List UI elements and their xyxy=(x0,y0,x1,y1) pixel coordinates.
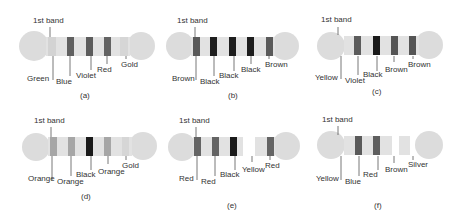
band-label: Red xyxy=(179,174,194,183)
resistor-f: 1st band Yellow Blue Red Brown Silver (f… xyxy=(316,115,443,210)
band-label: Black xyxy=(219,71,240,80)
caption: (b) xyxy=(228,91,238,100)
first-band-label: 1st band xyxy=(322,115,353,124)
resistor-d: 1st band Orange Orange Black Orange Gold… xyxy=(22,116,157,201)
band-5-red xyxy=(267,137,274,156)
band-3-violet xyxy=(86,37,93,56)
band-2-black xyxy=(210,37,217,56)
resistor-b: 1st band Brown Black Black Black Brown (… xyxy=(166,16,299,100)
left-end-cap xyxy=(317,131,345,159)
first-band-label: 1st band xyxy=(321,15,352,24)
band-5-gold xyxy=(122,137,129,156)
band-3-black xyxy=(229,37,236,56)
band-5-brown xyxy=(409,36,416,55)
right-end-cap xyxy=(271,32,299,60)
band-label: Black xyxy=(200,77,221,86)
first-band-label: 1st band xyxy=(34,116,65,125)
caption: (c) xyxy=(372,87,382,96)
resistor-a: 1st band Green Blue Violet Red Gold (a) xyxy=(19,16,155,100)
band-4-orange xyxy=(104,137,111,156)
band-label: Brown xyxy=(385,165,408,174)
resistor-color-code-figure: 1st band Green Blue Violet Red Gold (a) … xyxy=(0,0,466,216)
band-1-green xyxy=(48,37,56,56)
band-label: Blue xyxy=(56,77,73,86)
band-2-blue xyxy=(355,136,362,155)
band-5-brown xyxy=(266,37,273,56)
left-end-cap xyxy=(168,133,196,161)
band-4-brown xyxy=(391,36,398,55)
band-label: Red xyxy=(97,65,112,74)
first-band-label: 1st band xyxy=(179,116,210,125)
right-end-cap xyxy=(129,132,157,160)
band-5-gold xyxy=(120,37,128,56)
resistor-body-left xyxy=(344,136,392,155)
band-4-red xyxy=(104,37,111,56)
left-end-cap xyxy=(22,133,50,161)
right-end-cap xyxy=(415,131,443,159)
band-label: Silver xyxy=(408,160,428,169)
caption: (e) xyxy=(227,201,237,210)
band-label: Yellow xyxy=(315,73,338,82)
band-label: Green xyxy=(27,74,49,83)
band-label: Red xyxy=(201,177,216,186)
caption: (f) xyxy=(374,201,382,210)
band-label: Black xyxy=(241,65,262,74)
band-label: Orange xyxy=(28,174,55,183)
band-label: Yellow xyxy=(316,174,339,183)
band-3-black xyxy=(86,137,93,156)
right-end-cap xyxy=(127,32,155,60)
caption: (d) xyxy=(81,192,91,201)
band-label: Red xyxy=(265,161,280,170)
right-end-cap xyxy=(415,31,443,59)
caption: (a) xyxy=(80,91,90,100)
band-1-red xyxy=(194,137,201,156)
band-3-red xyxy=(373,136,380,155)
band-label: Brown xyxy=(172,74,195,83)
band-2-blue xyxy=(67,37,74,56)
band-1-brown xyxy=(193,37,200,56)
band-label: Red xyxy=(363,170,378,179)
first-band-label: 1st band xyxy=(177,16,208,25)
resistor-body-right xyxy=(399,136,410,155)
band-label: Brown xyxy=(385,65,408,74)
band-label: Brown xyxy=(265,60,288,69)
band-label: Black xyxy=(220,170,241,179)
band-1-orange xyxy=(50,137,57,156)
band-label: Gold xyxy=(121,60,138,69)
band-2-red xyxy=(212,137,219,156)
band-3-black xyxy=(230,137,237,156)
band-label: Black xyxy=(76,170,97,179)
resistor-c: 1st band Yellow Violet Black Brown Brown… xyxy=(315,15,443,96)
first-band-label: 1st band xyxy=(33,16,64,25)
band-label: Brown xyxy=(408,60,431,69)
band-label: Violet xyxy=(76,71,97,80)
band-label: Yellow xyxy=(242,165,265,174)
band-label: Gold xyxy=(122,161,139,170)
band-label: Black xyxy=(363,70,384,79)
band-label: Blue xyxy=(345,177,362,186)
resistor-e: 1st band Red Red Black Yellow Red (e) xyxy=(168,116,300,210)
band-3-black xyxy=(373,36,380,55)
left-end-cap xyxy=(19,31,49,61)
band-2-violet xyxy=(354,36,361,55)
right-end-cap xyxy=(272,132,300,160)
left-end-cap xyxy=(317,32,345,60)
left-end-cap xyxy=(166,32,194,60)
band-2-orange xyxy=(68,137,75,156)
band-4-black xyxy=(247,37,254,56)
